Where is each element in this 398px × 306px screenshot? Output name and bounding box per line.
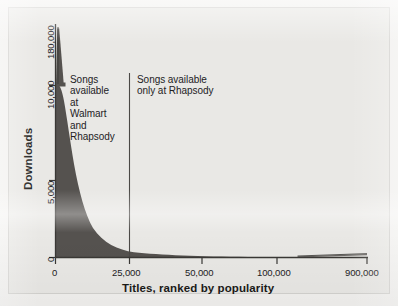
- y-tick-label-0: 0: [45, 257, 56, 262]
- y-tick-label-5000: 5,000: [45, 181, 56, 204]
- x-tick-label-100000: 100,000: [257, 267, 291, 278]
- annotation-rhapsody-only: Songs available only at Rhapsody: [137, 74, 213, 97]
- downloads-spike-180000: [56, 29, 64, 85]
- x-tick-label-900000: 900,000: [345, 267, 379, 278]
- chart-plot-area: [0, 0, 398, 306]
- x-tick-label-0: 0: [52, 267, 57, 278]
- annotation-walmart-rhapsody: Songs available at Walmart and Rhapsody: [70, 74, 115, 142]
- x-tick-label-50000: 50,000: [185, 267, 213, 278]
- x-tick-label-25000: 25,000: [112, 267, 140, 278]
- y-tick-label-180000: 180,000: [45, 25, 56, 59]
- chart-screenshot: 0 5,000 10,000 180,000 Downloads 0 25,00…: [0, 0, 398, 306]
- x-axis-title: Titles, ranked by popularity: [122, 282, 274, 294]
- y-tick-label-10000: 10,000: [45, 81, 56, 109]
- y-axis-title: Downloads: [22, 128, 34, 190]
